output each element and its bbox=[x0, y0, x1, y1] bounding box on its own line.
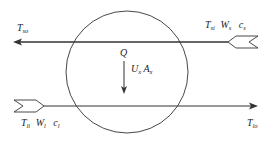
heat-flow bbox=[121, 61, 127, 94]
label-top-inlet: Tsi Ws cs bbox=[205, 19, 246, 32]
label-bottom-inlet: Tli Wl cl bbox=[21, 117, 60, 130]
heat-exchanger-diagram: Tso Tsi Ws cs Q Ux Ax Tli Wl cl Tlo bbox=[0, 0, 274, 144]
top-stream bbox=[13, 36, 258, 48]
label-Q: Q bbox=[120, 47, 128, 58]
control-volume-circle bbox=[66, 11, 188, 133]
label-T-lo: Tlo bbox=[247, 117, 258, 129]
top-stream-fletching-icon bbox=[228, 36, 258, 48]
label-UxAx: Ux Ax bbox=[131, 63, 153, 76]
label-T-so: Tso bbox=[17, 22, 29, 34]
bottom-stream bbox=[14, 100, 258, 112]
bottom-stream-fletching-icon bbox=[14, 100, 44, 112]
